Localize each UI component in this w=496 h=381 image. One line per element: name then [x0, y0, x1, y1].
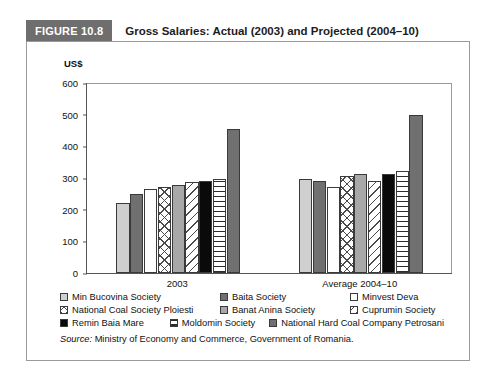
source-prefix: Source: — [60, 334, 92, 344]
legend-swatch-horizontal-lines — [170, 319, 178, 327]
y-axis-tick-300: 300 — [62, 173, 87, 184]
legend-row: Remin Baia MareMoldomin SocietyNational … — [60, 317, 460, 329]
x-axis-label-1: 2003 — [167, 278, 188, 289]
plot-box: 0100200300400500600 — [86, 83, 452, 274]
legend-item-label: Minvest Deva — [362, 292, 418, 302]
legend-item[interactable]: Minvest Deva — [350, 292, 418, 302]
y-axis-tick-400: 400 — [62, 141, 87, 152]
bar — [213, 179, 226, 273]
figure-container: FIGURE 10.8 Gross Salaries: Actual (2003… — [0, 0, 496, 381]
legend-item[interactable]: Min Bucovina Society — [60, 292, 161, 302]
legend-swatch-white — [350, 293, 358, 301]
bar — [327, 187, 340, 273]
bar — [199, 181, 212, 273]
legend-item-label: Moldomin Society — [182, 318, 255, 328]
bar — [185, 182, 198, 273]
legend-item-label: National Coal Society Ploiesti — [72, 305, 193, 315]
chart-legend: Min Bucovina SocietyBaita SocietyMinvest… — [60, 291, 460, 330]
y-axis-tick-0: 0 — [73, 268, 87, 279]
figure-title: Gross Salaries: Actual (2003) and Projec… — [112, 20, 419, 41]
chart-area: US$ 0100200300400500600 2003Average 2004… — [27, 42, 471, 362]
bar — [340, 176, 353, 273]
legend-item-label: Min Bucovina Society — [72, 292, 161, 302]
source-text: Ministry of Economy and Commerce, Govern… — [92, 334, 353, 344]
legend-row: Min Bucovina SocietyBaita SocietyMinvest… — [60, 291, 460, 303]
figure-number-badge: FIGURE 10.8 — [26, 20, 112, 41]
bar — [382, 174, 395, 273]
legend-swatch-medium-gray — [220, 306, 228, 314]
legend-item[interactable]: Moldomin Society — [170, 318, 255, 328]
y-axis-tick-100: 100 — [62, 236, 87, 247]
bar — [227, 129, 240, 273]
legend-item-label: Remin Baia Mare — [72, 318, 144, 328]
bar — [130, 194, 143, 273]
y-axis-tick-200: 200 — [62, 204, 87, 215]
y-axis-tick-600: 600 — [62, 78, 87, 89]
bar — [354, 174, 367, 273]
legend-item[interactable]: Remin Baia Mare — [60, 318, 144, 328]
bar — [158, 187, 171, 273]
legend-item-label: Cuprumin Society — [362, 305, 435, 315]
x-axis-label-2: Average 2004–10 — [322, 278, 397, 289]
bar — [299, 179, 312, 273]
y-axis-unit-label: US$ — [64, 58, 82, 69]
legend-item[interactable]: Baita Society — [220, 292, 286, 302]
legend-item-label: Baita Society — [232, 292, 286, 302]
bar — [144, 189, 157, 273]
legend-item[interactable]: National Hard Coal Company Petrosani — [269, 318, 444, 328]
y-axis-tick-500: 500 — [62, 109, 87, 120]
bar — [396, 171, 409, 273]
legend-swatch-light-gray — [60, 293, 68, 301]
legend-swatch-crosshatch — [60, 306, 68, 314]
legend-row: National Coal Society PloiestiBanat Anin… — [60, 304, 460, 316]
bar-series-group — [87, 83, 452, 273]
legend-item[interactable]: Banat Anina Society — [220, 305, 315, 315]
legend-swatch-dark-gray — [220, 293, 228, 301]
source-note: Source: Ministry of Economy and Commerce… — [60, 334, 354, 344]
legend-item-label: Banat Anina Society — [232, 305, 315, 315]
legend-swatch-black — [60, 319, 68, 327]
bar — [368, 181, 381, 273]
figure-frame: US$ 0100200300400500600 2003Average 2004… — [26, 41, 470, 361]
bar — [409, 115, 422, 273]
bar — [172, 185, 185, 273]
legend-item[interactable]: Cuprumin Society — [350, 305, 435, 315]
legend-swatch-dark-gray-2 — [269, 319, 277, 327]
legend-swatch-diagonal — [350, 306, 358, 314]
legend-item-label: National Hard Coal Company Petrosani — [281, 318, 444, 328]
legend-item[interactable]: National Coal Society Ploiesti — [60, 305, 193, 315]
bar — [313, 181, 326, 273]
bar — [116, 203, 129, 273]
figure-header: FIGURE 10.8 Gross Salaries: Actual (2003… — [26, 20, 470, 41]
